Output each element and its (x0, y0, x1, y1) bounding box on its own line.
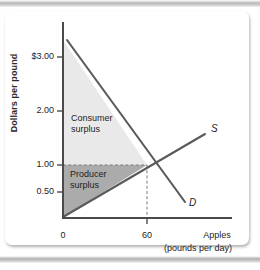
y-tick-label-0-5: 0.50 (10, 186, 54, 196)
figure-root: Dollars per pound $3.00 2.00 1.00 0.50 0… (0, 0, 260, 270)
y-tick-label-1: 1.00 (10, 159, 54, 169)
y-tick-label-3: $3.00 (10, 51, 54, 61)
producer-surplus-label-line1: Producer (70, 169, 107, 179)
x-axis-subtitle: (pounds per day) (148, 243, 248, 253)
demand-curve-label: D (189, 197, 196, 208)
x-tick-label-60: 60 (137, 230, 157, 240)
supply-curve-label: S (211, 123, 218, 134)
x-tick-label-0: 0 (53, 230, 73, 240)
x-axis-title: Apples (186, 230, 248, 240)
producer-surplus-label: Producer surplus (70, 169, 107, 190)
consumer-surplus-region (63, 40, 147, 165)
consumer-surplus-label: Consumer surplus (71, 113, 113, 134)
consumer-surplus-label-line1: Consumer (71, 113, 113, 123)
y-tick-label-2: 2.00 (10, 105, 54, 115)
producer-surplus-label-line2: surplus (70, 180, 99, 190)
consumer-surplus-label-line2: surplus (71, 124, 100, 134)
